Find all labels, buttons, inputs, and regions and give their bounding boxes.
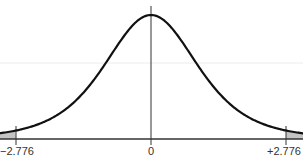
center-label: 0 bbox=[148, 145, 154, 157]
lower-critical-label: −2.776 bbox=[0, 145, 34, 157]
t-distribution-chart bbox=[0, 0, 303, 162]
upper-critical-label: +2.776 bbox=[267, 145, 301, 157]
